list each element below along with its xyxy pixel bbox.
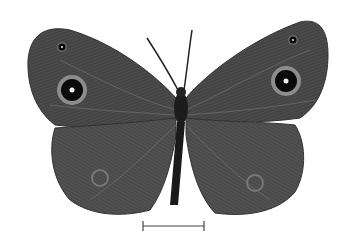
- butterfly-photo: butterfly specimen (dorsal view): [0, 0, 353, 247]
- right-antenna: [184, 30, 192, 90]
- left-small-eyespot: [57, 42, 67, 52]
- scale-bar: [143, 221, 204, 231]
- right-forewing: [186, 21, 328, 122]
- right-large-eyespot: [271, 66, 301, 96]
- right-small-eyespot: [288, 35, 298, 45]
- right-hindwing: [186, 118, 304, 214]
- left-large-eyespot: [57, 75, 87, 105]
- left-hindwing: [52, 118, 176, 214]
- butterfly-illustration: [0, 0, 353, 247]
- left-forewing: [28, 29, 176, 127]
